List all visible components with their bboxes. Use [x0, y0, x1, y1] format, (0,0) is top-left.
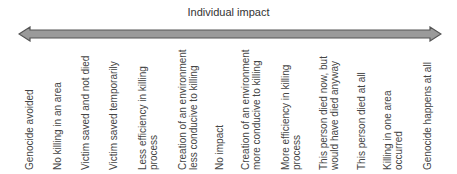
scale-label: No killing in an area — [52, 82, 63, 170]
scale-label: This person died now, butwould have died… — [318, 56, 340, 170]
scale-label: Less efficiency in killingprocess — [137, 66, 159, 170]
scale-label: No impact — [214, 125, 225, 170]
scale-label: This person died at all — [356, 72, 367, 170]
scale-label: Killing in one areaoccurred — [382, 91, 404, 171]
scale-label: Victim saved temporarily — [108, 61, 119, 170]
scale-label: Creation of an environmentless conducive… — [177, 49, 199, 170]
scale-label: Creation of an environmentmore conducive… — [240, 49, 262, 170]
scale-label: Victim saved and not died — [80, 56, 91, 170]
scale-label: Genocide happens at all — [422, 62, 433, 170]
scale-label: Genocide avoided — [24, 89, 35, 170]
scale-label: More efficiency in killingprocess — [280, 65, 302, 170]
impact-scale-labels: Genocide avoided No killing in an area V… — [0, 0, 457, 174]
